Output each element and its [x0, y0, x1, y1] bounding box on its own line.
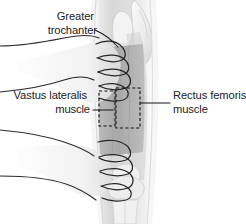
- label-vastus-lateralis-line1: Vastus lateralis: [14, 89, 88, 101]
- label-greater-trochanter-line2: trochanter: [48, 24, 98, 36]
- femoral-condyles: [108, 176, 144, 199]
- label-vastus-lateralis-line2: muscle: [55, 103, 90, 115]
- illustration-figure: Greater trochanter Vastus lateralis musc…: [0, 0, 246, 224]
- anatomical-illustration-canvas: Greater trochanter Vastus lateralis musc…: [0, 0, 246, 224]
- label-rectus-femoris-line2: muscle: [173, 103, 208, 115]
- label-greater-trochanter-line1: Greater: [57, 10, 95, 22]
- label-rectus-femoris-line1: Rectus femoris: [173, 89, 246, 101]
